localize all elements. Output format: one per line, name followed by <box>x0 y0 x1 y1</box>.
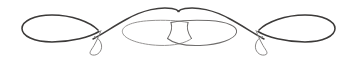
central-vesica-left-edge <box>187 23 191 39</box>
left-inner-ellipse <box>122 20 191 45</box>
right-inner-ellipse <box>168 20 237 45</box>
central-vesica-right-edge <box>168 23 172 39</box>
right-loop <box>258 15 335 42</box>
left-loop <box>22 15 99 42</box>
left-curl <box>90 31 102 56</box>
right-curl <box>255 31 267 56</box>
left-arc <box>93 8 179 39</box>
right-arc <box>178 8 264 39</box>
flourish-ornament-svg: Calligraphic flourish divider Symmetric … <box>0 0 357 65</box>
ornament-canvas: Calligraphic flourish divider Symmetric … <box>0 0 357 65</box>
